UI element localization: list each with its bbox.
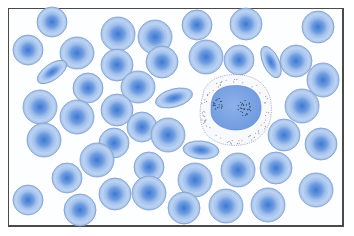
red-blood-cell [305, 128, 337, 160]
chromatin-granule [215, 105, 216, 106]
chromatin-granule [244, 100, 245, 101]
red-blood-cells [13, 7, 339, 226]
chromatin-granule [219, 104, 220, 105]
red-blood-cell [151, 118, 185, 152]
chromatin-granule [214, 103, 215, 104]
red-blood-cell [60, 100, 94, 134]
chromatin-granule [221, 107, 222, 108]
chromatin-granule [217, 99, 218, 100]
chromatin-granule [244, 109, 245, 110]
red-blood-cell [99, 178, 131, 210]
red-blood-cell [302, 11, 334, 43]
red-blood-cell [132, 176, 166, 210]
red-blood-cell [182, 10, 212, 40]
red-blood-cell [299, 173, 333, 207]
red-blood-cell [80, 143, 114, 177]
chromatin-granule [213, 105, 214, 106]
red-blood-cell [27, 123, 61, 157]
chromatin-granule [240, 111, 241, 112]
chromatin-granule [249, 109, 250, 110]
chromatin-granule [216, 100, 217, 101]
chromatin-granule [213, 102, 214, 103]
chromatin-granule [245, 115, 246, 116]
red-blood-cell [52, 163, 82, 193]
red-blood-cell [146, 46, 178, 78]
chromatin-granule [243, 108, 244, 109]
chromatin-granule [221, 104, 222, 105]
chromatin-granule [241, 104, 242, 105]
red-blood-cell [189, 40, 223, 74]
chromatin-granule [240, 107, 241, 108]
chromatin-granule [247, 114, 248, 115]
red-blood-cell [209, 189, 243, 223]
chromatin-granule [219, 98, 220, 99]
chromatin-granule [242, 112, 243, 113]
red-blood-cell [23, 90, 57, 124]
red-blood-cell [224, 45, 254, 75]
red-blood-cell [230, 8, 262, 40]
chromatin-granule [213, 104, 214, 105]
red-blood-cell [251, 188, 285, 222]
red-blood-cell [268, 119, 300, 151]
chromatin-granule [246, 104, 247, 105]
red-blood-cell [285, 89, 319, 123]
red-blood-cell [101, 17, 135, 51]
red-blood-cell [153, 84, 194, 111]
red-blood-cell [73, 73, 103, 103]
chromatin-granule [242, 103, 243, 104]
chromatin-granule [220, 101, 221, 102]
red-blood-cell [221, 153, 255, 187]
red-blood-cell [13, 185, 43, 215]
red-blood-cell [168, 192, 200, 224]
chromatin-granule [240, 102, 241, 103]
red-blood-cell [182, 139, 219, 160]
red-blood-cell [64, 194, 96, 226]
cells-canvas [0, 0, 354, 236]
chromatin-granule [241, 108, 242, 109]
wbc-nucleus [211, 86, 261, 130]
chromatin-granule [249, 106, 250, 107]
chromatin-granule [222, 106, 223, 107]
chromatin-granule [238, 109, 239, 110]
chromatin-granule [217, 107, 218, 108]
chromatin-granule [221, 101, 222, 102]
red-blood-cell [260, 152, 292, 184]
red-blood-cell [37, 7, 67, 37]
chromatin-granule [219, 106, 220, 107]
red-blood-cell [13, 35, 43, 65]
white-blood-cell [200, 75, 271, 146]
chromatin-granule [238, 105, 239, 106]
chromatin-granule [242, 115, 243, 116]
chromatin-granule [215, 108, 216, 109]
chromatin-granule [250, 110, 251, 111]
red-blood-cell [280, 45, 312, 77]
chromatin-granule [249, 104, 250, 105]
blood-smear-figure [0, 0, 354, 236]
chromatin-granule [247, 109, 248, 110]
chromatin-granule [243, 104, 244, 105]
